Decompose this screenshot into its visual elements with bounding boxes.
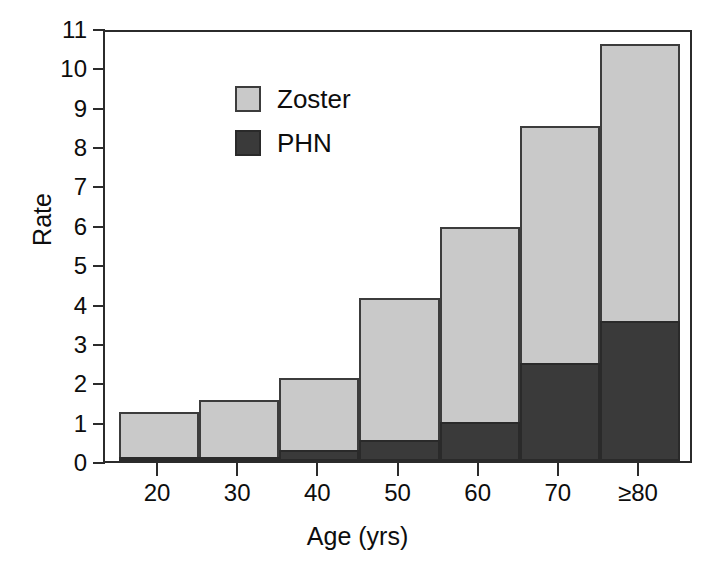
y-axis-tick-label: 0 xyxy=(27,451,87,475)
y-axis-tick-label: 8 xyxy=(27,136,87,160)
bar-segment-zoster xyxy=(199,400,279,461)
x-axis-tick xyxy=(397,463,399,476)
bar-segment-phn xyxy=(600,321,680,461)
bar-group xyxy=(600,44,680,461)
bar-segment-phn xyxy=(520,363,600,461)
legend-label-phn: PHN xyxy=(277,130,332,156)
legend-item-zoster: Zoster xyxy=(235,77,351,121)
y-axis-tick-label: 5 xyxy=(27,254,87,278)
bar-segment-phn xyxy=(119,457,199,461)
y-axis-tick-label: 1 xyxy=(27,412,87,436)
x-axis-tick xyxy=(316,463,318,476)
bar-segment-phn xyxy=(279,450,359,461)
y-axis-tick-label: 9 xyxy=(27,97,87,121)
y-axis-tick-label: 7 xyxy=(27,175,87,199)
bar-segment-zoster xyxy=(359,298,439,461)
bar-group xyxy=(520,126,600,461)
bar-segment-zoster xyxy=(119,412,199,461)
bar-group xyxy=(279,378,359,461)
x-axis-tick xyxy=(156,463,158,476)
y-axis-tick-label: 4 xyxy=(27,294,87,318)
x-axis-tick xyxy=(477,463,479,476)
y-axis-tick-label: 11 xyxy=(27,18,87,42)
y-axis-tick-label: 10 xyxy=(27,57,87,81)
plot-area: Zoster PHN xyxy=(103,30,692,463)
legend-swatch-phn-icon xyxy=(235,130,261,156)
bar-segment-zoster xyxy=(279,378,359,461)
bar-segment-phn xyxy=(359,440,439,461)
x-axis-tick xyxy=(637,463,639,476)
x-axis-tick xyxy=(236,463,238,476)
x-axis-tick xyxy=(557,463,559,476)
bar-segment-phn xyxy=(199,457,279,461)
x-axis-title: Age (yrs) xyxy=(0,522,715,551)
chart-legend: Zoster PHN xyxy=(235,77,351,165)
legend-label-zoster: Zoster xyxy=(277,86,351,112)
bar-group xyxy=(440,227,520,461)
chart-figure: Rate 01234567891011 Zoster PHN 203040506… xyxy=(0,0,715,566)
x-axis-tick-label: ≥80 xyxy=(578,480,698,506)
bar-segment-phn xyxy=(440,422,520,461)
bar-group xyxy=(359,298,439,461)
y-axis-tick-label: 6 xyxy=(27,215,87,239)
bar-group xyxy=(199,400,279,461)
y-axis-tick-label: 3 xyxy=(27,333,87,357)
y-axis-tick-label: 2 xyxy=(27,372,87,396)
legend-swatch-zoster-icon xyxy=(235,86,261,112)
bar-group xyxy=(119,412,199,461)
legend-item-phn: PHN xyxy=(235,121,351,165)
